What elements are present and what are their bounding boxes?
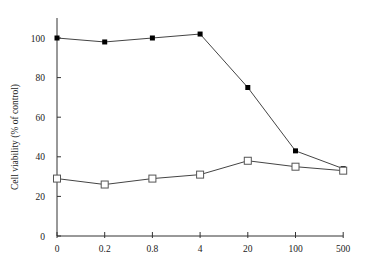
series-group (54, 32, 347, 188)
x-tick-label: 0 (55, 244, 60, 254)
series-line (57, 34, 343, 169)
filled-square-marker (293, 148, 298, 153)
filled-square-marker (150, 36, 155, 41)
open-square-marker (54, 175, 61, 182)
x-tick-label: 4 (198, 244, 203, 254)
x-tick-label: 20 (243, 244, 253, 254)
filled-square-marker (102, 39, 107, 44)
open-square-marker (244, 157, 251, 164)
open-square-marker (149, 175, 156, 182)
y-tick-label: 60 (36, 113, 46, 123)
open-square-marker (197, 171, 204, 178)
y-tick-label: 40 (36, 152, 46, 162)
x-tick-label: 500 (336, 244, 351, 254)
y-tick-label: 100 (31, 34, 46, 44)
x-tick-label: 0.2 (99, 244, 111, 254)
y-tick-label: 20 (36, 192, 46, 202)
y-tick-label: 0 (40, 232, 45, 242)
filled-square-marker (55, 36, 60, 41)
open-square-marker (292, 163, 299, 170)
y-tick-label: 80 (36, 73, 46, 83)
filled-square-marker (198, 32, 203, 37)
y-axis-title: Cell viability (% of control) (10, 84, 21, 190)
line-chart: 02040608010000.20.8420100500 Cell viabil… (0, 0, 365, 270)
x-tick-label: 100 (288, 244, 303, 254)
filled-square-marker (245, 85, 250, 90)
axes: 02040608010000.20.8420100500 (31, 18, 351, 254)
open-square-marker (101, 181, 108, 188)
open-square-marker (340, 167, 347, 174)
series-filled-square (55, 32, 346, 172)
x-tick-label: 0.8 (146, 244, 158, 254)
series-open-square (54, 157, 347, 188)
